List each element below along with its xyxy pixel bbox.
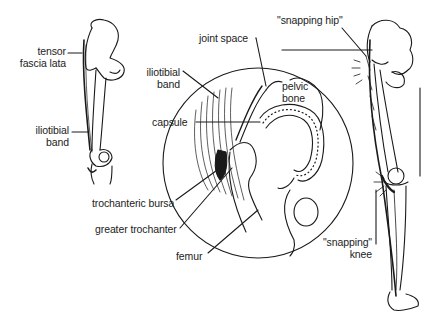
label-greater-trochanter: greater trochanter: [95, 223, 177, 235]
label-line: iliotibial: [136, 66, 180, 78]
label-line: "snapping": [310, 236, 372, 248]
label-line: tensor: [2, 45, 66, 57]
inset-circle-drawing: [163, 68, 353, 258]
label-line: knee: [310, 248, 372, 260]
label-snapping-knee: "snapping" knee: [310, 236, 372, 260]
label-joint-space: joint space: [199, 32, 248, 44]
label-line: iliotibial: [2, 124, 69, 136]
label-tensor-fascia-lata: tensor fascia lata: [2, 45, 66, 69]
label-line: bone: [282, 92, 308, 104]
label-line: fascia lata: [2, 57, 66, 69]
label-trochanteric-bursa: trochanteric bursa: [92, 197, 174, 209]
anatomy-diagram: tensor fascia lata iliotibial band joint…: [0, 0, 440, 326]
label-line: band: [136, 78, 180, 90]
label-femur: femur: [176, 250, 202, 262]
right-leg-drawing: [352, 20, 420, 310]
label-pelvic-bone: pelvic bone: [282, 80, 308, 104]
label-line: band: [2, 136, 69, 148]
label-iliotibial-band-left: iliotibial band: [2, 124, 69, 148]
label-line: pelvic: [282, 80, 308, 92]
label-snapping-hip: "snapping hip": [277, 14, 343, 26]
label-capsule: capsule: [152, 116, 188, 128]
label-iliotibial-band-inset: iliotibial band: [136, 66, 180, 90]
anatomy-illustration: [0, 0, 440, 326]
left-femur-drawing: [83, 19, 124, 184]
